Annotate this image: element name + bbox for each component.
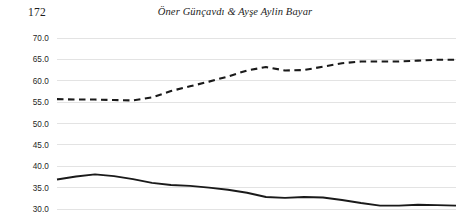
chart-gridlines [57,38,456,209]
y-axis-tick-label: 40.0 [33,162,50,171]
chart-series-group [57,60,456,206]
y-axis-tick-label: 30.0 [33,205,50,214]
book-page: 172 Öner Günçavdı & Ayşe Aylin Bayar 30.… [0,0,470,215]
chart-canvas: 30.035.040.045.050.055.060.065.070.0 [0,30,470,215]
running-head: 172 Öner Günçavdı & Ayşe Aylin Bayar [0,6,470,24]
y-axis-tick-label: 65.0 [33,55,50,64]
chart-y-axis-labels: 30.035.040.045.050.055.060.065.070.0 [33,34,50,214]
y-axis-tick-label: 45.0 [33,141,50,150]
line-chart: 30.035.040.045.050.055.060.065.070.0 [0,30,470,215]
y-axis-tick-label: 60.0 [33,77,50,86]
y-axis-tick-label: 70.0 [33,34,50,43]
y-axis-tick-label: 55.0 [33,98,50,107]
y-axis-tick-label: 50.0 [33,120,50,129]
y-axis-tick-label: 35.0 [33,184,50,193]
running-title: Öner Günçavdı & Ayşe Aylin Bayar [0,6,470,17]
series-line-solid [57,174,456,205]
series-line-dashed [57,60,456,101]
